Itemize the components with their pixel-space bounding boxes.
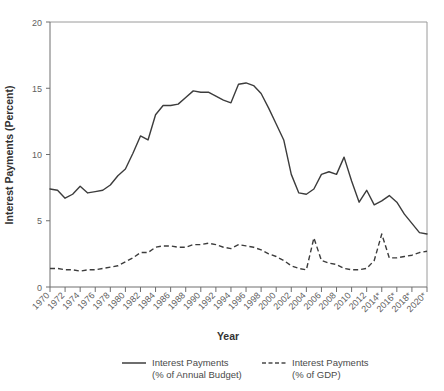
line-chart-figure: Interest Payments (Percent) 05101520 197… [0, 0, 444, 391]
y-tick-label: 20 [32, 18, 42, 28]
legend-entry-1-line1: Interest Payments [292, 357, 369, 368]
x-axis-ticks: 1970197219741976197819801982198419861988… [30, 287, 429, 314]
legend-entry-1-line2: (% of GDP) [292, 369, 341, 380]
chart-container: Interest Payments (Percent) 05101520 197… [0, 0, 444, 391]
legend-entry-0-line2: (% of Annual Budget) [152, 369, 242, 380]
y-tick-label: 10 [32, 150, 42, 160]
x-axis-title: Year [217, 330, 239, 342]
legend-entry-0-line1: Interest Payments [152, 357, 229, 368]
y-axis-ticks: 05101520 [32, 18, 50, 293]
y-tick-label: 15 [32, 84, 42, 94]
y-tick-label: 5 [37, 216, 42, 226]
y-axis-title: Interest Payments (Percent) [3, 86, 15, 225]
series-line-gdp [50, 234, 427, 271]
y-tick-label: 0 [37, 283, 42, 293]
plot-frame [50, 22, 427, 287]
chart-legend: Interest Payments (% of Annual Budget) I… [122, 357, 369, 380]
series-line-annual-budget [50, 83, 427, 234]
